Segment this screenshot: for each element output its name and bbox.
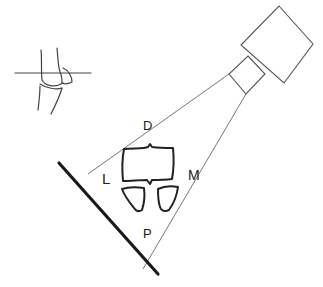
inset-bone-lower-left (38, 86, 40, 110)
xray-tube-housing (241, 6, 313, 83)
xray-beam (88, 74, 246, 269)
bone-cross-sections (122, 144, 178, 211)
label-palmar: P (143, 226, 152, 241)
label-medial: M (188, 167, 200, 183)
inset-bone-upper-right (57, 48, 62, 83)
inset-bone-upper-left (41, 50, 63, 86)
inset-sesamoid (62, 68, 72, 84)
label-dorsal: D (143, 118, 152, 133)
label-lateral: L (102, 170, 110, 187)
joint-inset (15, 48, 91, 114)
inset-bone-lower-right (51, 88, 62, 114)
bone-cross-section-main (122, 144, 173, 184)
xray-tube (229, 6, 313, 94)
diagram-canvas: D L M P (0, 0, 323, 287)
bone-cross-section-right (158, 186, 178, 211)
bone-cross-section-left (122, 187, 144, 211)
